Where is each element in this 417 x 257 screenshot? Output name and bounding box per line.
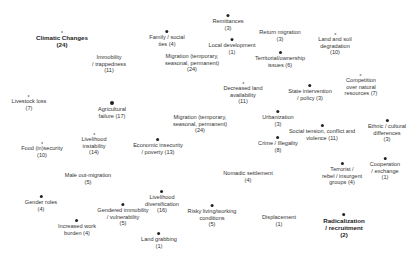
node-land-soil-degradation: Land and soildegradation(10): [318, 33, 351, 56]
node-terrorist-groups: Terrorist /rebel / insurgentgroups (4): [322, 162, 362, 186]
node-label: / trappedness: [92, 61, 126, 68]
node-dot-icon: [166, 30, 169, 33]
node-label: Agricultural: [98, 106, 126, 113]
node-migration-top: Migration (temporary,seasonal, permanent…: [165, 53, 219, 73]
node-label: (3): [368, 136, 406, 143]
node-label: (1): [262, 221, 296, 228]
node-label: seasonal, permanent): [165, 60, 219, 67]
node-return-migration: Return migration(3): [259, 29, 300, 42]
node-dot-icon: [320, 124, 323, 127]
node-label: / recruitment: [323, 224, 365, 231]
node-livelihood-instability: Livelihoodinstability(14): [81, 133, 106, 156]
node-label: Livelihood: [145, 194, 179, 201]
node-label: (5): [97, 220, 148, 227]
node-livestock-loss: Livestock loss(7): [12, 95, 47, 111]
node-decreased-land-availability: Decreased landavailability(11): [223, 82, 262, 105]
node-state-intervention: State intervention/ policy (3): [288, 84, 332, 101]
node-label: Territorial/ownership: [255, 55, 305, 62]
node-label: (11): [92, 67, 126, 74]
node-label: Local development: [209, 42, 256, 49]
node-label: degradation: [318, 43, 351, 50]
node-label: Immobility: [92, 54, 126, 61]
node-dot-icon: [110, 101, 114, 105]
node-dot-icon: [157, 138, 160, 141]
node-dot-icon: [76, 219, 79, 222]
node-label: (1): [141, 243, 177, 250]
node-label: Cooperation: [370, 161, 400, 168]
node-label: availability: [223, 92, 262, 99]
node-label: (24): [36, 41, 88, 48]
node-dot-icon: [308, 84, 311, 87]
node-agricultural-failure: Agriculturalfailure (17): [98, 101, 126, 119]
node-label: Livelihood: [81, 136, 106, 143]
node-nomadic-settlement: Nomadic settlement(4): [223, 170, 272, 183]
node-label: Gender roles: [25, 199, 57, 206]
node-label: State intervention: [288, 88, 332, 95]
node-dot-icon: [93, 133, 95, 135]
node-label: Gendered immobility: [97, 207, 148, 214]
node-family-social-ties: Family / socialties (4): [149, 30, 184, 47]
node-migration-center: Migration (temporary,seasonal, permanent…: [173, 114, 227, 134]
node-dot-icon: [334, 33, 336, 35]
node-increased-work-burden: Increased workburden (4): [58, 219, 96, 236]
node-dot-icon: [277, 110, 280, 113]
node-label: (11): [223, 98, 262, 105]
node-social-tension-conflict: Social tension, conflict andviolence (11…: [289, 124, 355, 141]
node-label: Male out-migration: [65, 172, 111, 179]
node-land-grabbing: Land grabbing(1): [141, 232, 177, 249]
node-competition-natural-resources: Competitionover naturalresources (7): [345, 74, 378, 97]
node-label: (5): [65, 179, 111, 186]
node-label: instability: [81, 143, 106, 150]
node-label: (3): [212, 25, 243, 32]
node-label: (4): [25, 206, 57, 213]
node-dot-icon: [41, 142, 43, 144]
node-label: Social tension, conflict and: [289, 128, 355, 135]
node-male-out-migration: Male out-migration(5): [65, 172, 111, 185]
node-label: Competition: [345, 77, 378, 84]
node-label: groups (4): [322, 179, 362, 186]
node-label: violence (11): [289, 135, 355, 142]
node-label: differences: [368, 130, 406, 137]
node-label: Land grabbing: [141, 236, 177, 243]
node-label: issues (6): [255, 62, 305, 69]
node-label: (16): [145, 207, 179, 214]
node-label: Land and soil: [318, 36, 351, 43]
node-label: (3): [259, 36, 300, 43]
node-label: Increased work: [58, 223, 96, 230]
node-label: Displacement: [262, 214, 296, 221]
node-dot-icon: [360, 74, 362, 76]
node-displacement: Displacement(1): [262, 214, 296, 227]
node-dot-icon: [383, 157, 386, 160]
node-label: Terrorist /: [322, 166, 362, 173]
node-label: Climatic Changes: [36, 34, 88, 41]
node-label: Risky living/working: [188, 208, 237, 215]
node-label: (8): [258, 147, 298, 154]
node-dot-icon: [40, 195, 43, 198]
node-label: (10): [318, 49, 351, 56]
node-label: Economic insecurity: [133, 142, 183, 149]
node-dot-icon: [279, 51, 282, 54]
node-label: over natural: [345, 84, 378, 91]
node-gender-roles: Gender roles(4): [25, 195, 57, 212]
node-label: Decreased land: [223, 85, 262, 92]
node-food-insecurity: Food (in)security(10): [21, 142, 63, 158]
node-label: Ethnic / cultural: [368, 123, 406, 130]
node-dot-icon: [28, 95, 30, 97]
node-dot-icon: [211, 204, 214, 207]
node-dot-icon: [341, 162, 344, 165]
node-immobility-trappedness: Immobility/ trappedness(11): [92, 54, 126, 74]
node-label: resources (7): [345, 90, 378, 97]
node-label: Urbanization: [262, 114, 293, 121]
node-gendered-immobility: Gendered immobility/ vulnerability(5): [97, 203, 148, 227]
node-dot-icon: [386, 119, 389, 122]
node-label: (24): [165, 66, 219, 73]
node-label: / vulnerability: [97, 214, 148, 221]
node-dot-icon: [61, 31, 63, 33]
node-label: Migration (temporary,: [165, 53, 219, 60]
node-label: Food (in)security: [21, 145, 63, 152]
node-dot-icon: [242, 82, 244, 84]
node-label: (7): [12, 105, 47, 112]
node-label: Remittances: [212, 18, 243, 25]
node-label: (10): [21, 152, 63, 159]
node-label: Radicalization: [323, 217, 365, 224]
